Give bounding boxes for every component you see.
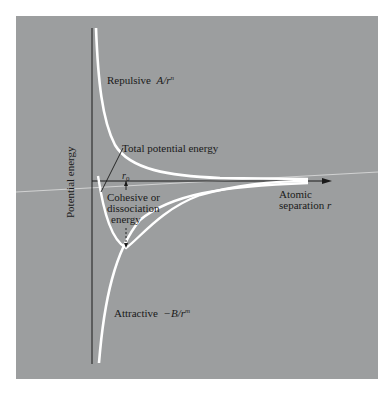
attractive-label: Attractive −B/rm	[114, 306, 190, 319]
y-axis-label: Potential energy	[64, 146, 76, 218]
repulsive-curve	[96, 28, 308, 179]
total-energy-leader-line	[101, 148, 123, 192]
potential-energy-diagram	[0, 0, 390, 395]
repulsive-formula: A/r	[157, 74, 171, 86]
attractive-label-text: Attractive	[114, 307, 158, 319]
repulsive-exponent: n	[171, 74, 175, 82]
r0-label: r0	[122, 170, 129, 185]
cohesive-line-3: energy	[107, 214, 160, 225]
x-axis-arrow-icon	[322, 178, 332, 184]
cohesive-energy-label: Cohesive or dissociation energy	[107, 192, 160, 225]
attractive-exponent: m	[185, 307, 190, 315]
r0-subscript: 0	[126, 175, 130, 183]
x-axis-label: Atomic separation r	[279, 189, 331, 211]
repulsive-label-text: Repulsive	[107, 74, 151, 86]
x-axis-label-line-2: separation	[279, 199, 324, 211]
attractive-formula: −B/r	[163, 307, 184, 319]
x-axis-symbol: r	[327, 199, 331, 211]
total-energy-label: Total potential energy	[122, 143, 218, 154]
repulsive-label: Repulsive A/rn	[107, 73, 174, 86]
